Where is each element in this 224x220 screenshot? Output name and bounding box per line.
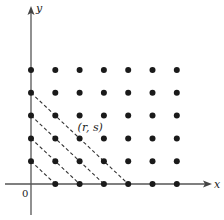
lattice-point-0-4	[28, 90, 34, 96]
lattice-point-4-4	[125, 90, 131, 96]
lattice-point-0-2	[28, 135, 34, 141]
lattice-point-1-3	[52, 113, 58, 119]
lattice-point-2-5	[77, 67, 83, 73]
origin-label: 0	[22, 188, 28, 199]
lattice-point-2-1	[77, 158, 83, 164]
lattice-point-2-4	[77, 90, 83, 96]
lattice-point-6-2	[174, 135, 180, 141]
lattice-point-6-5	[174, 67, 180, 73]
y-axis-label: y	[35, 2, 43, 15]
lattice-point-6-4	[174, 90, 180, 96]
diagonal-line-1	[31, 161, 55, 184]
axes: x y 0	[5, 2, 221, 215]
lattice-point-1-4	[52, 90, 58, 96]
lattice-point-1-1	[52, 158, 58, 164]
lattice-point-3-5	[101, 67, 107, 73]
lattice-point-1-2	[52, 135, 58, 141]
lattice-point-2-2	[77, 135, 83, 141]
lattice-point-4-1	[125, 158, 131, 164]
lattice-point-5-4	[150, 90, 156, 96]
lattice-point-4-5	[125, 67, 131, 73]
lattice-point-3-0	[101, 181, 107, 187]
lattice-point-3-2	[101, 135, 107, 141]
lattice-point-6-0	[174, 181, 180, 187]
lattice-point-5-2	[150, 135, 156, 141]
lattice-point-1-0	[52, 181, 58, 187]
lattice-diagram: x y 0 (r, s)	[0, 0, 224, 220]
lattice-point-0-1	[28, 158, 34, 164]
lattice-point-5-0	[150, 181, 156, 187]
lattice-point-6-1	[174, 158, 180, 164]
lattice-point-3-4	[101, 90, 107, 96]
lattice-point-0-5	[28, 67, 34, 73]
lattice-point-3-3	[101, 113, 107, 119]
lattice-point-2-0	[77, 181, 83, 187]
lattice-point-5-5	[150, 67, 156, 73]
lattice-point-1-5	[52, 67, 58, 73]
lattice-point-4-0	[125, 181, 131, 187]
lattice-point-5-1	[150, 158, 156, 164]
point-annotation: (r, s)	[78, 121, 103, 134]
lattice-points	[28, 67, 180, 187]
lattice-point-6-3	[174, 113, 180, 119]
lattice-point-0-3	[28, 113, 34, 119]
lattice-point-4-3	[125, 113, 131, 119]
lattice-point-2-3	[77, 113, 83, 119]
x-axis-label: x	[214, 178, 221, 191]
lattice-point-5-3	[150, 113, 156, 119]
lattice-point-3-1	[101, 158, 107, 164]
lattice-point-4-2	[125, 135, 131, 141]
